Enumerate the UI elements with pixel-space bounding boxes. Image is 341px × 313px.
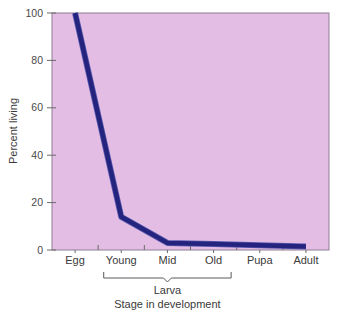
y-axis-tick-label: 80 [31,54,43,66]
x-axis-category-label: Adult [293,254,318,266]
x-axis-category-label: Old [205,254,222,266]
x-axis-category-label: Pupa [247,254,274,266]
x-axis-title: Stage in development [114,298,220,310]
y-axis-tick-label: 0 [37,244,43,256]
y-axis-tick-label: 40 [31,149,43,161]
x-axis-category-label: Young [106,254,137,266]
x-axis-category-label: Egg [65,254,85,266]
plot-area-background [52,13,329,250]
survivorship-chart-figure: 020406080100 Percent living EggYoungMidO… [0,0,341,313]
y-axis-tick-label: 100 [25,7,43,19]
y-axis-title: Percent living [7,98,19,164]
chart-svg: 020406080100 Percent living EggYoungMidO… [0,0,341,313]
y-axis-tick-label: 60 [31,101,43,113]
larva-group-label: Larva [154,284,182,296]
y-axis-tick-label: 20 [31,196,43,208]
x-axis-category-label: Mid [159,254,177,266]
